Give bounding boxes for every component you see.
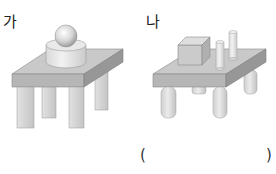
short-cylinder-object	[216, 41, 224, 71]
answer-paren-open: (	[140, 148, 146, 163]
tall-cylinder-object	[229, 31, 237, 61]
table-b-leg-front-left	[161, 87, 176, 118]
figures-illustration	[0, 0, 276, 174]
table-b-leg-front-right	[213, 87, 227, 118]
answer-paren-close: )	[266, 148, 272, 163]
table-b-front	[153, 74, 226, 87]
table-a-front	[12, 74, 84, 87]
table-b	[153, 31, 266, 119]
cube-object	[178, 37, 210, 65]
table-a	[12, 25, 123, 128]
table-a-leg-back-left	[42, 86, 56, 118]
table-a-leg-front-right	[69, 87, 84, 128]
table-a-leg-front-left	[17, 87, 34, 128]
sphere-object	[55, 25, 77, 47]
